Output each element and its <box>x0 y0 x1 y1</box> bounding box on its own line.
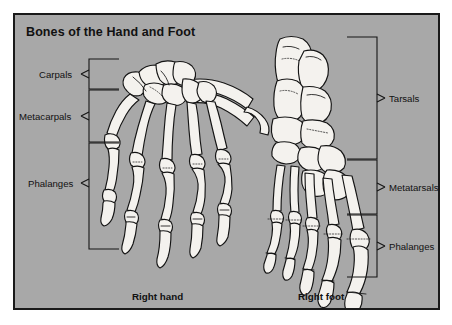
caption-right-hand: Right hand <box>132 291 183 302</box>
label-phalanges-foot: Phalanges <box>389 242 434 252</box>
figure-panel: Bones of the Hand and Foot .bn{fill:#f4f… <box>13 13 440 310</box>
figure-root: Bones of the Hand and Foot .bn{fill:#f4f… <box>0 0 452 325</box>
right-hand-skeleton <box>101 61 269 268</box>
label-carpals: Carpals <box>39 70 72 80</box>
skeleton-artwork: .bn{fill:#f4f2ee;stroke:#141414;stroke-w… <box>15 15 440 310</box>
label-metacarpals: Metacarpals <box>19 112 71 122</box>
caption-right-foot: Right foot <box>298 291 344 302</box>
label-tarsals: Tarsals <box>389 94 419 104</box>
right-foot-skeleton <box>264 37 370 311</box>
label-metatarsals: Metatarsals <box>389 183 439 193</box>
label-phalanges-hand: Phalanges <box>28 179 73 189</box>
